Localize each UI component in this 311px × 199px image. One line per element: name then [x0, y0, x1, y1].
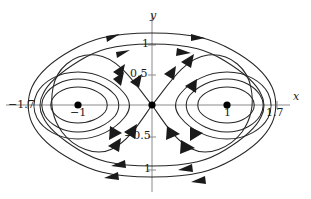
- y-tick-label-0.5: 0.5: [130, 68, 148, 79]
- phase-portrait-figure: −1.7 −1 1 1.7 x y 1 0.5 −0.5 1: [0, 0, 311, 199]
- y-axis-label: y: [150, 10, 156, 21]
- arrow-inner-left-bottom: [109, 126, 122, 140]
- arrow-outer-top-left: [106, 34, 120, 42]
- arrow-outer-bottom-right: [191, 176, 206, 184]
- equilibrium-point-saddle-origin: [148, 101, 155, 108]
- arrow-separatrix-upper-right-inner: [164, 66, 176, 80]
- arrow-outer2-top-right: [176, 48, 191, 56]
- arrow-outer2-bottom-left: [111, 160, 126, 168]
- x-tick-label-1.7: 1.7: [266, 107, 284, 118]
- x-tick-label--1: −1: [70, 107, 86, 118]
- y-tick-label-1: 1: [142, 38, 149, 49]
- arrow-inner-right-top: [185, 79, 197, 93]
- arrow-outer-top-right: [191, 34, 205, 41]
- x-tick-label-1: 1: [224, 107, 231, 118]
- arrow-separatrix-upper-right: [181, 54, 194, 68]
- arrow-separatrix-lower-right: [180, 140, 195, 154]
- arrow-outer2-top-left: [116, 50, 130, 58]
- x-tick-label--1.7: −1.7: [8, 99, 35, 110]
- y-tick-label--1: 1: [144, 163, 151, 174]
- x-axis-label: x: [293, 91, 299, 102]
- arrow-outer2-bottom-right: [178, 164, 193, 172]
- arrow-separatrix-lower-right-inner: [166, 126, 180, 140]
- y-tick-label--0.5: −0.5: [124, 130, 151, 141]
- arrow-inner-right-bottom: [190, 127, 203, 141]
- phase-portrait-canvas: [0, 0, 311, 199]
